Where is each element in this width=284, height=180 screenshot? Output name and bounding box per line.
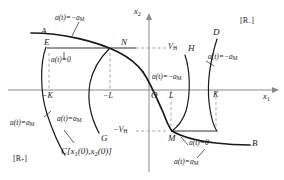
point-label-a: A bbox=[41, 27, 47, 36]
point-label-e: E bbox=[44, 38, 50, 47]
point-label-d: D bbox=[213, 28, 220, 37]
annotation-left-lower-control: a(t)=aM bbox=[10, 119, 34, 127]
tick-label-neg-l: −L bbox=[103, 92, 113, 100]
point-label-h: H bbox=[188, 44, 195, 53]
annotation-right-control: a(t)=−aM bbox=[208, 53, 238, 61]
tick-label-pos-k: K bbox=[213, 91, 218, 99]
leader-bottom bbox=[197, 149, 205, 158]
region-label-lower-left: [R+] bbox=[13, 155, 27, 163]
point-label-n: N bbox=[121, 38, 127, 47]
x-axis-label: x1 bbox=[263, 92, 270, 101]
origin-label: O bbox=[151, 91, 158, 100]
point-label-b: B bbox=[252, 139, 258, 148]
curve-H-to-M bbox=[172, 55, 189, 131]
annotation-bottom-right-zero: a(t)=0 bbox=[189, 139, 209, 147]
tick-label-vh-negative: −VH bbox=[113, 126, 127, 134]
annotation-left-mid-control: a(t)=aM bbox=[57, 115, 81, 123]
annotation-bottom-control: a(t)=aM bbox=[174, 158, 198, 166]
annotation-top-left-control: a(t)=−aM bbox=[55, 14, 85, 22]
leader-C bbox=[64, 130, 74, 143]
x-axis-arrowhead bbox=[272, 87, 279, 93]
curve-M-to-B bbox=[172, 131, 250, 145]
y-axis-label: x2 bbox=[134, 7, 141, 16]
tick-label-neg-k: −K bbox=[42, 92, 53, 100]
point-label-m: M bbox=[168, 134, 176, 143]
phase-plane-diagram: x2 x1 O −K −L L K VH −VH A E N G H D M B… bbox=[0, 0, 284, 180]
y-axis-arrowhead bbox=[146, 13, 152, 20]
region-label-upper-right: [R−] bbox=[240, 17, 254, 25]
point-label-g: G bbox=[101, 134, 108, 143]
point-label-c: C[x1(0),x2(0)] bbox=[61, 147, 112, 156]
leader-top-left bbox=[72, 22, 79, 36]
tick-label-vh-positive: VH bbox=[168, 43, 177, 51]
annotation-center-control: a(t)=−aM bbox=[152, 73, 182, 81]
annotation-left-inner-zero: a(t)=0 bbox=[51, 56, 71, 64]
tick-label-pos-l: L bbox=[169, 92, 173, 100]
